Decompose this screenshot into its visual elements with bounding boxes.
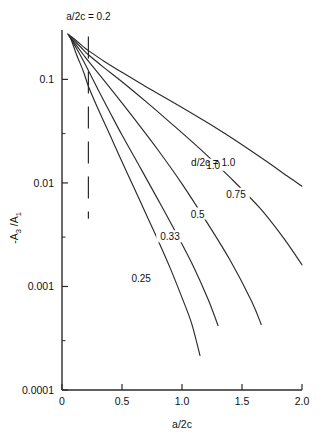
x-tick-label: 1.0 — [175, 395, 190, 407]
curve-label-0-5: 0.5 — [191, 209, 205, 220]
curve-0-75 — [68, 34, 302, 264]
a-over-2c-annotation: a/2c = 0.2 — [66, 11, 111, 22]
y-tick-label: 0.1 — [39, 73, 54, 85]
curves-group — [68, 34, 302, 356]
log-line-chart: 0.10.010.0010.0001 00.51.01.52.0 0.250.3… — [0, 0, 329, 439]
curve-label-0-75: 0.75 — [226, 189, 246, 200]
y-axis-title: -A3 /A1 — [8, 212, 23, 244]
y-title-sub-den: 1 — [14, 212, 23, 216]
axes-group — [62, 30, 302, 390]
x-tick-label: 2.0 — [295, 395, 310, 407]
curve-1-0 — [68, 34, 302, 186]
x-tick-label: 0.5 — [115, 395, 130, 407]
y-tick-label: 0.0001 — [22, 384, 54, 396]
d-over-2c-annotation: d/2c = 1.0 — [191, 157, 236, 168]
curve-0-25 — [70, 37, 200, 355]
y-tick-label: 0.01 — [34, 177, 55, 189]
y-title-a-den: A — [8, 216, 20, 223]
x-tick-label: 0 — [59, 395, 65, 407]
curve-label-0-25: 0.25 — [131, 273, 151, 284]
x-tick-labels-group: 00.51.01.52.0 — [59, 395, 309, 407]
y-tick-labels-group: 0.10.010.0010.0001 — [22, 73, 54, 396]
figure-container: 0.10.010.0010.0001 00.51.01.52.0 0.250.3… — [0, 0, 329, 439]
y-axis-title-text: -A3 /A1 — [8, 212, 23, 244]
y-title-a-num: A — [8, 233, 20, 240]
curve-label-0-33: 0.33 — [160, 231, 180, 242]
x-axis-title: a/2c — [172, 418, 192, 430]
y-tick-label: 0.001 — [28, 280, 54, 292]
x-tick-label: 1.5 — [235, 395, 250, 407]
